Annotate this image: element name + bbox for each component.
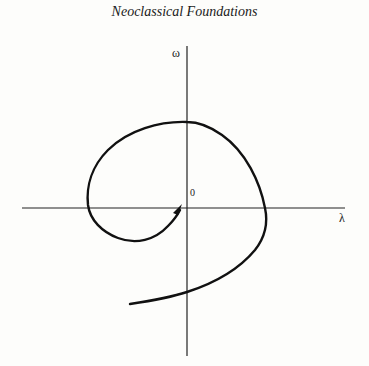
phase-diagram: ω λ 0 xyxy=(0,0,369,366)
omega-axis-label: ω xyxy=(172,46,180,60)
lambda-axis-label: λ xyxy=(339,211,345,225)
origin-label: 0 xyxy=(190,187,195,198)
